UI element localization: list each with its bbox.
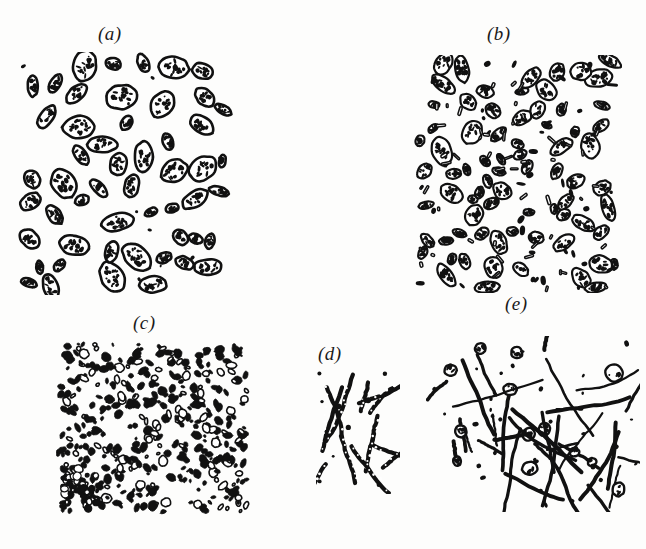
panel-a-label: (a): [98, 23, 122, 45]
panel-e-drawing: [426, 336, 640, 512]
panel-b-drawing: [412, 55, 622, 293]
figure-plate: (a) (b) (c) (d) (e): [0, 0, 646, 549]
panel-e-label: (e): [505, 293, 528, 315]
panel-d-drawing: [316, 370, 400, 494]
panel-c-drawing: [56, 341, 250, 515]
panel-c-label: (c): [133, 312, 156, 334]
panel-d-label: (d): [318, 343, 342, 365]
panel-a-drawing: [18, 52, 233, 295]
panel-b-label: (b): [487, 23, 511, 45]
